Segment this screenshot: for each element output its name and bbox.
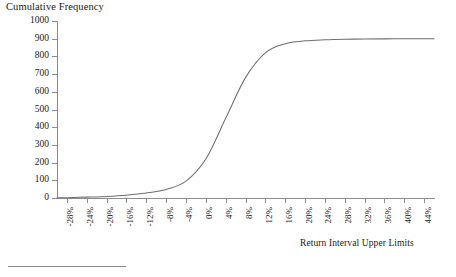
x-axis-label: 16% (284, 207, 293, 224)
x-axis-tick (285, 198, 286, 203)
x-axis-label: -20% (106, 207, 115, 227)
y-axis-label: 400 (35, 122, 49, 132)
x-axis-label: -12% (145, 207, 154, 227)
y-axis-label: 700 (35, 69, 49, 79)
x-axis-tick (226, 198, 227, 203)
x-axis-tick (246, 198, 247, 203)
x-axis-tick (325, 198, 326, 203)
y-axis-label: 0 (44, 193, 49, 203)
x-axis-label: -28% (66, 207, 75, 227)
x-axis-tick (424, 198, 425, 203)
y-axis-label: 500 (35, 105, 49, 115)
x-axis-tick (206, 198, 207, 203)
y-axis-label: 100 (35, 176, 49, 186)
chart-title: Cumulative Frequency (6, 1, 104, 12)
y-axis-label: 600 (35, 87, 49, 97)
x-axis-label: 28% (344, 207, 353, 224)
x-axis-title: Return Interval Upper Limits (300, 238, 414, 248)
x-axis-label: -16% (125, 207, 134, 227)
plot-area: 01002003004005006007008009001000 -28%-24… (57, 21, 434, 198)
y-axis-tick (52, 198, 57, 199)
x-axis-label: 4% (225, 207, 234, 219)
y-axis-label: 1000 (30, 16, 49, 26)
x-axis-label: 32% (364, 207, 373, 224)
y-axis-label: 800 (35, 52, 49, 62)
x-axis-tick (345, 198, 346, 203)
x-axis-label: 44% (423, 207, 432, 224)
x-axis-tick (186, 198, 187, 203)
x-axis-tick (146, 198, 147, 203)
x-axis-label: 20% (304, 207, 313, 224)
x-axis-tick (87, 198, 88, 203)
x-axis-label: 12% (264, 207, 273, 224)
x-axis-label: 0% (205, 207, 214, 219)
x-axis-label: 40% (403, 207, 412, 224)
x-axis-tick (166, 198, 167, 203)
x-axis-label: -4% (185, 207, 194, 222)
footnote-separator (8, 266, 126, 267)
x-axis-tick (265, 198, 266, 203)
x-axis-label: -24% (86, 207, 95, 227)
x-axis-tick (384, 198, 385, 203)
x-axis-label: 24% (324, 207, 333, 224)
x-axis-label: -8% (165, 207, 174, 222)
x-axis-tick (107, 198, 108, 203)
y-axis-label: 900 (35, 34, 49, 44)
x-axis-tick (365, 198, 366, 203)
x-axis-label: 8% (245, 207, 254, 219)
x-axis-label: 36% (383, 207, 392, 224)
x-axis-tick (67, 198, 68, 203)
x-axis-tick (305, 198, 306, 203)
cumulative-frequency-chart: Cumulative Frequency 0100200300400500600… (0, 0, 456, 277)
x-axis-tick (126, 198, 127, 203)
x-axis-tick (404, 198, 405, 203)
cumulative-frequency-curve (57, 21, 434, 198)
y-axis-label: 300 (35, 140, 49, 150)
y-axis-label: 200 (35, 158, 49, 168)
